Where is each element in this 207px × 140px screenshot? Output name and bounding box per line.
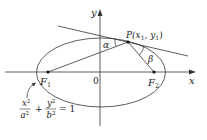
alpha-arc — [115, 39, 116, 47]
focus-f2-point — [152, 70, 155, 73]
point-p-label: P(x1, y1) — [125, 30, 163, 41]
f1-label: F1 — [39, 76, 51, 89]
alpha-label: α — [103, 40, 109, 50]
f2-label: F2 — [147, 77, 159, 90]
origin-label: 0 — [93, 76, 99, 86]
point-p — [126, 40, 129, 43]
svg-text:a2: a2 — [21, 110, 30, 121]
x-axis-label: x — [189, 75, 195, 86]
svg-text:x2: x2 — [22, 98, 30, 109]
x-axis-arrow-icon — [189, 70, 196, 75]
svg-text:+: + — [35, 104, 43, 114]
beta-arc — [140, 46, 145, 55]
ellipse-equation: x2 a2 + y2 b2 = 1 — [20, 98, 76, 121]
y-axis-label: y — [90, 7, 97, 18]
tangent-line — [58, 26, 188, 56]
svg-text:y2: y2 — [46, 98, 55, 109]
svg-text:b2: b2 — [47, 110, 56, 121]
beta-label: β — [147, 54, 153, 64]
y-axis-arrow-icon — [98, 9, 103, 16]
focus-f1-point — [46, 70, 49, 73]
equation-pointer-arrow-icon — [32, 83, 37, 87]
ellipse-reflection-diagram: x y 0 F1 F2 P(x1, y1) α β x2 a2 + y2 b2 … — [0, 0, 207, 140]
equation-pointer — [27, 84, 34, 98]
svg-text:= 1: = 1 — [59, 104, 75, 114]
ellipse — [37, 38, 166, 107]
